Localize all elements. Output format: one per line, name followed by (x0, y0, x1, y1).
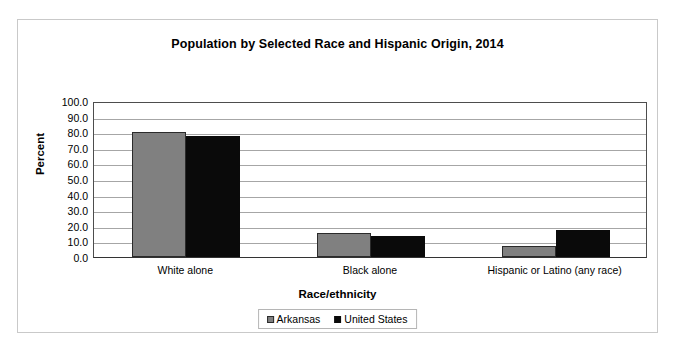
chart-figure: Population by Selected Race and Hispanic… (17, 19, 658, 333)
x-axis-tick-label: Black alone (270, 264, 470, 276)
x-axis-tick-label: Hispanic or Latino (any race) (455, 264, 655, 276)
y-axis-tick-label: 30.0 (42, 205, 88, 217)
legend-label-united-states: United States (344, 313, 407, 325)
y-axis-tick-label: 20.0 (42, 221, 88, 233)
y-axis-tick-label: 50.0 (42, 174, 88, 186)
y-axis-tick-label: 40.0 (42, 190, 88, 202)
y-axis-tick-label: 100.0 (42, 96, 88, 108)
bar-united-states (556, 230, 610, 257)
plot-wrapper (93, 102, 647, 258)
legend-swatch-arkansas (267, 316, 274, 323)
bar-arkansas (502, 246, 556, 257)
gridline (94, 119, 646, 120)
bar-united-states (371, 236, 425, 257)
legend-swatch-united-states (334, 316, 341, 323)
y-axis-tick-label: 60.0 (42, 158, 88, 170)
chart-title: Population by Selected Race and Hispanic… (18, 37, 657, 51)
bar-united-states (186, 136, 240, 257)
bar-arkansas (132, 132, 186, 257)
y-axis-tick-label: 0.0 (42, 252, 88, 264)
plot-area (93, 102, 647, 258)
y-axis-tick-label: 70.0 (42, 143, 88, 155)
legend-item-arkansas[interactable]: Arkansas (267, 313, 321, 325)
chart-legend: Arkansas United States (258, 309, 418, 329)
y-axis-tick-label: 90.0 (42, 112, 88, 124)
x-axis-tick-label: White alone (85, 264, 285, 276)
x-axis-label: Race/ethnicity (18, 288, 657, 300)
y-axis-ticks: 100.090.080.070.060.050.040.030.020.010.… (40, 102, 88, 258)
y-axis-tick-label: 80.0 (42, 127, 88, 139)
legend-item-united-states[interactable]: United States (334, 313, 407, 325)
bar-arkansas (317, 233, 371, 257)
legend-label-arkansas: Arkansas (277, 313, 321, 325)
y-axis-tick-label: 10.0 (42, 236, 88, 248)
